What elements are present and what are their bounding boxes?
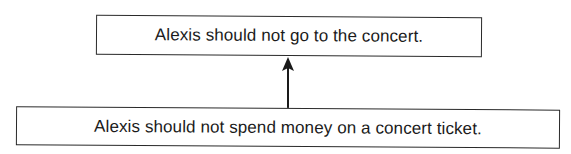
conclusion-box: Alexis should not go to the concert.: [96, 15, 482, 57]
premise-box: Alexis should not spend money on a conce…: [16, 106, 560, 148]
conclusion-text: Alexis should not go to the concert.: [155, 25, 423, 47]
support-arrow-icon: [278, 56, 298, 110]
premise-text: Alexis should not spend money on a conce…: [94, 116, 482, 138]
